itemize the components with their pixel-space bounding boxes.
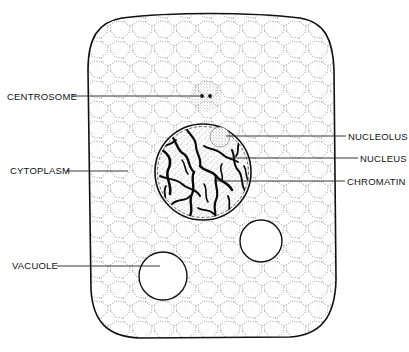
- label-cytoplasm: CYTOPLASM: [10, 165, 70, 176]
- vacuole: [240, 220, 282, 262]
- cell-diagram: CENTROSOME CYTOPLASM VACUOLE NUCLEOLUS N…: [0, 0, 409, 352]
- centriole-granule: [208, 94, 212, 98]
- label-chromatin: CHROMATIN: [347, 176, 406, 187]
- nucleus: [155, 124, 251, 220]
- centriole-granule: [200, 94, 204, 98]
- label-vacuole: VACUOLE: [12, 260, 58, 271]
- label-centrosome: CENTROSOME: [7, 91, 77, 102]
- label-nucleus: NUCLEUS: [360, 153, 407, 164]
- vacuole: [139, 252, 187, 300]
- label-nucleolus: NUCLEOLUS: [348, 131, 408, 142]
- nucleolus: [210, 127, 230, 147]
